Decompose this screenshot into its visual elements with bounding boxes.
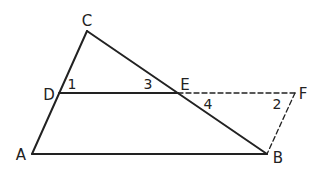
vertex-label-e: E bbox=[180, 76, 189, 94]
segments bbox=[32, 31, 295, 154]
vertex-labels: CDEFAB bbox=[16, 12, 307, 167]
angle-label-1: 1 bbox=[68, 76, 77, 92]
triangle-diagram: CDEFAB 1342 bbox=[0, 0, 321, 169]
vertex-label-a: A bbox=[16, 146, 27, 164]
angle-label-2: 2 bbox=[273, 96, 282, 112]
vertex-label-c: C bbox=[82, 12, 92, 30]
angle-label-3: 3 bbox=[144, 76, 153, 92]
geometry-figure: CDEFAB 1342 bbox=[0, 0, 321, 169]
angle-label-4: 4 bbox=[204, 96, 213, 112]
vertex-label-b: B bbox=[273, 149, 283, 167]
vertex-label-d: D bbox=[43, 86, 55, 104]
vertex-label-f: F bbox=[299, 85, 308, 103]
